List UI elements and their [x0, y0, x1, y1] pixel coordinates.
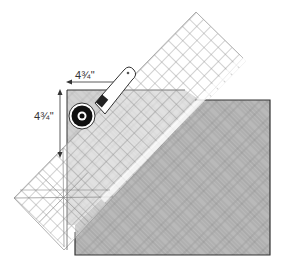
vertical-measurement-label: 4¾" [34, 110, 54, 122]
horizontal-measurement-label: 4¾" [75, 69, 95, 81]
double-arrow-vertical-icon [58, 89, 63, 158]
quilting-illustration [0, 0, 282, 270]
